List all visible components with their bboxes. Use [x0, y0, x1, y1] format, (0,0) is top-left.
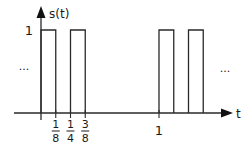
- ellipsis-left: ...: [19, 60, 30, 73]
- ellipsis-right: ...: [220, 62, 231, 75]
- pulse-1: [71, 30, 86, 113]
- pulse-3: [189, 30, 204, 113]
- x-axis-arrowhead: [221, 109, 233, 118]
- x-tick-label-denominator: 8: [82, 132, 89, 145]
- x-tick-label-numerator: 3: [82, 118, 89, 131]
- x-tick-label-denominator: 8: [52, 132, 59, 145]
- pulse-0: [41, 30, 56, 113]
- x-axis-label: t: [236, 107, 241, 121]
- y-axis-label: s(t): [49, 7, 69, 21]
- x-tick-label: 1: [155, 123, 163, 138]
- y-tick-label: 1: [25, 23, 33, 38]
- x-tick-label-denominator: 4: [67, 132, 74, 145]
- x-tick-label-numerator: 1: [67, 118, 74, 131]
- pulse-2: [159, 30, 174, 113]
- x-tick-label-numerator: 1: [52, 118, 59, 131]
- pulse-train-chart: 18143811s(t)t......: [0, 0, 251, 151]
- y-axis-arrowhead: [37, 6, 46, 18]
